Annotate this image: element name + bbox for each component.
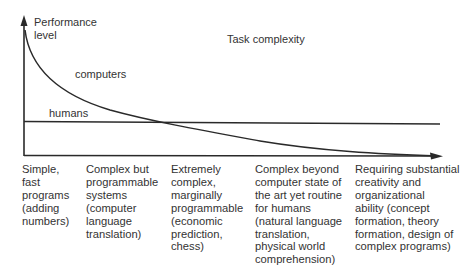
category-text: chess) — [171, 240, 243, 253]
category-text: for humans — [255, 202, 342, 215]
category-text: the art yet routine — [255, 189, 342, 202]
category-text: Complex but — [86, 163, 158, 176]
category-creativity: Requiring substantial creativity and org… — [355, 163, 459, 253]
category-text: numbers) — [22, 215, 69, 228]
category-text: language — [86, 215, 158, 228]
category-text: marginally — [171, 189, 243, 202]
category-text: Extremely — [171, 163, 243, 176]
category-text: programs — [22, 189, 69, 202]
category-extremely-complex: Extremely complex, marginally programmab… — [171, 163, 243, 253]
category-text: translation, — [255, 228, 342, 241]
category-text: Complex beyond — [255, 163, 342, 176]
category-simple: Simple, fast programs (adding numbers) — [22, 163, 69, 228]
category-text: formation, theory — [355, 215, 459, 228]
y-axis-label-line1: Performance — [34, 16, 97, 29]
category-text: (natural language — [255, 215, 342, 228]
y-axis-label: Performance level — [34, 16, 97, 42]
category-text: organizational — [355, 189, 459, 202]
category-text: (adding — [22, 202, 69, 215]
category-text: systems — [86, 189, 158, 202]
category-text: programmable — [171, 202, 243, 215]
category-text: creativity and — [355, 176, 459, 189]
category-text: translation) — [86, 228, 158, 241]
category-text: fast — [22, 176, 69, 189]
category-text: (computer — [86, 202, 158, 215]
category-text: prediction, — [171, 228, 243, 241]
computers-label: computers — [75, 68, 126, 81]
y-axis-arrow-icon — [21, 15, 28, 26]
category-text: Simple, — [22, 163, 69, 176]
x-axis-title: Task complexity — [227, 33, 305, 46]
category-text: ability (concept — [355, 202, 459, 215]
humans-line — [24, 122, 440, 125]
category-text: formation, design of — [355, 228, 459, 241]
category-beyond-computer: Complex beyond computer state of the art… — [255, 163, 342, 266]
performance-vs-complexity-diagram: Performance level Task complexity comput… — [0, 0, 475, 274]
category-text: complex, — [171, 176, 243, 189]
category-text: computer state of — [255, 176, 342, 189]
x-axis — [24, 156, 432, 157]
y-axis-label-line2: level — [34, 29, 97, 42]
category-text: complex programs) — [355, 240, 459, 253]
category-text: programmable — [86, 176, 158, 189]
category-text: (economic — [171, 215, 243, 228]
category-text: Requiring substantial — [355, 163, 459, 176]
category-text: physical world — [255, 240, 342, 253]
computers-curve — [25, 30, 438, 156]
category-text: comprehension) — [255, 253, 342, 266]
category-complex-programmable: Complex but programmable systems (comput… — [86, 163, 158, 240]
humans-label: humans — [49, 107, 88, 120]
